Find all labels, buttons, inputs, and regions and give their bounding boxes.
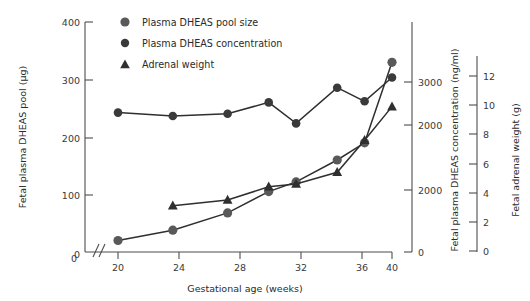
axis-break-icon <box>93 244 105 257</box>
left-axis: 400 300 200 100 0 Fetal plasma DHEAS poo… <box>17 17 93 260</box>
series-line <box>118 62 392 240</box>
chart-svg: 400 300 200 100 0 Fetal plasma DHEAS poo… <box>0 0 530 301</box>
right-inner-axis: 3000 2000 2000 0 Fetal plasma DHEAS conc… <box>404 22 460 258</box>
series-plasma-dheas-concentration <box>114 73 397 128</box>
circle-marker-icon <box>223 109 232 118</box>
right-outer-axis-tick-label: 2 <box>483 217 489 228</box>
series-adrenal-weight <box>168 101 397 209</box>
right-outer-axis-title: Fetal adrenal weight (g) <box>510 103 521 216</box>
series-line <box>118 78 392 124</box>
right-outer-axis-tick-label: 12 <box>483 71 495 82</box>
x-axis: 20 24 28 32 36 40 0 Gestational age (wee… <box>71 244 398 294</box>
circle-marker-icon <box>223 208 232 217</box>
circle-marker-icon <box>360 97 369 106</box>
x-axis-tick-label: 28 <box>234 262 246 273</box>
circle-marker-icon <box>121 39 129 47</box>
x-axis-origin-label: 0 <box>71 253 77 264</box>
circle-marker-icon <box>264 98 273 107</box>
legend-label: Adrenal weight <box>142 59 214 70</box>
left-axis-title: Fetal plasma DHEAS pool (µg) <box>17 66 28 208</box>
plot-area <box>113 58 397 245</box>
right-inner-axis-tick-label: 2000 <box>418 120 442 131</box>
circle-marker-icon <box>388 73 397 82</box>
legend-label: Plasma DHEAS pool size <box>142 17 258 28</box>
x-axis-tick-label: 36 <box>356 262 368 273</box>
series-line <box>173 107 392 206</box>
circle-marker-icon <box>114 108 123 117</box>
x-axis-tick-label: 40 <box>386 262 398 273</box>
right-outer-axis-tick-label: 0 <box>483 246 489 257</box>
circle-marker-icon <box>120 17 129 26</box>
legend-item-concentration: Plasma DHEAS concentration <box>121 38 283 49</box>
chart-legend: Plasma DHEAS pool size Plasma DHEAS conc… <box>120 17 282 70</box>
right-outer-axis-tick-label: 8 <box>483 129 489 140</box>
circle-marker-icon <box>387 58 396 67</box>
circle-marker-icon <box>168 226 177 235</box>
x-axis-tick-label: 20 <box>112 262 124 273</box>
legend-label: Plasma DHEAS concentration <box>142 38 282 49</box>
left-axis-tick-label: 100 <box>62 190 80 201</box>
right-inner-axis-title: Fetal plasma DHEAS concentration (ng/ml) <box>449 49 460 252</box>
right-inner-axis-tick-label: 3000 <box>418 77 442 88</box>
left-axis-tick-label: 400 <box>62 17 80 28</box>
legend-item-adrenal-weight: Adrenal weight <box>120 59 214 70</box>
circle-marker-icon <box>113 236 122 245</box>
circle-marker-icon <box>169 112 178 121</box>
legend-item-pool-size: Plasma DHEAS pool size <box>120 17 258 28</box>
chart-figure: 400 300 200 100 0 Fetal plasma DHEAS poo… <box>0 0 530 301</box>
x-axis-title: Gestational age (weeks) <box>187 283 302 294</box>
left-axis-tick-label: 300 <box>62 75 80 86</box>
right-inner-axis-tick-label: 0 <box>418 247 424 258</box>
right-inner-axis-tick-label: 2000 <box>418 185 442 196</box>
right-outer-axis: 12 10 8 6 4 2 0 Fetal adrenal weight (g) <box>469 56 521 257</box>
circle-marker-icon <box>333 83 342 92</box>
right-outer-axis-tick-label: 4 <box>483 188 489 199</box>
right-outer-axis-tick-label: 6 <box>483 159 489 170</box>
x-axis-tick-label: 24 <box>173 262 185 273</box>
triangle-marker-icon <box>120 60 130 69</box>
circle-marker-icon <box>333 155 342 164</box>
x-axis-tick-label: 32 <box>295 262 307 273</box>
left-axis-tick-label: 200 <box>62 133 80 144</box>
circle-marker-icon <box>292 119 301 128</box>
right-outer-axis-tick-label: 10 <box>483 100 495 111</box>
triangle-marker-icon <box>387 101 397 110</box>
